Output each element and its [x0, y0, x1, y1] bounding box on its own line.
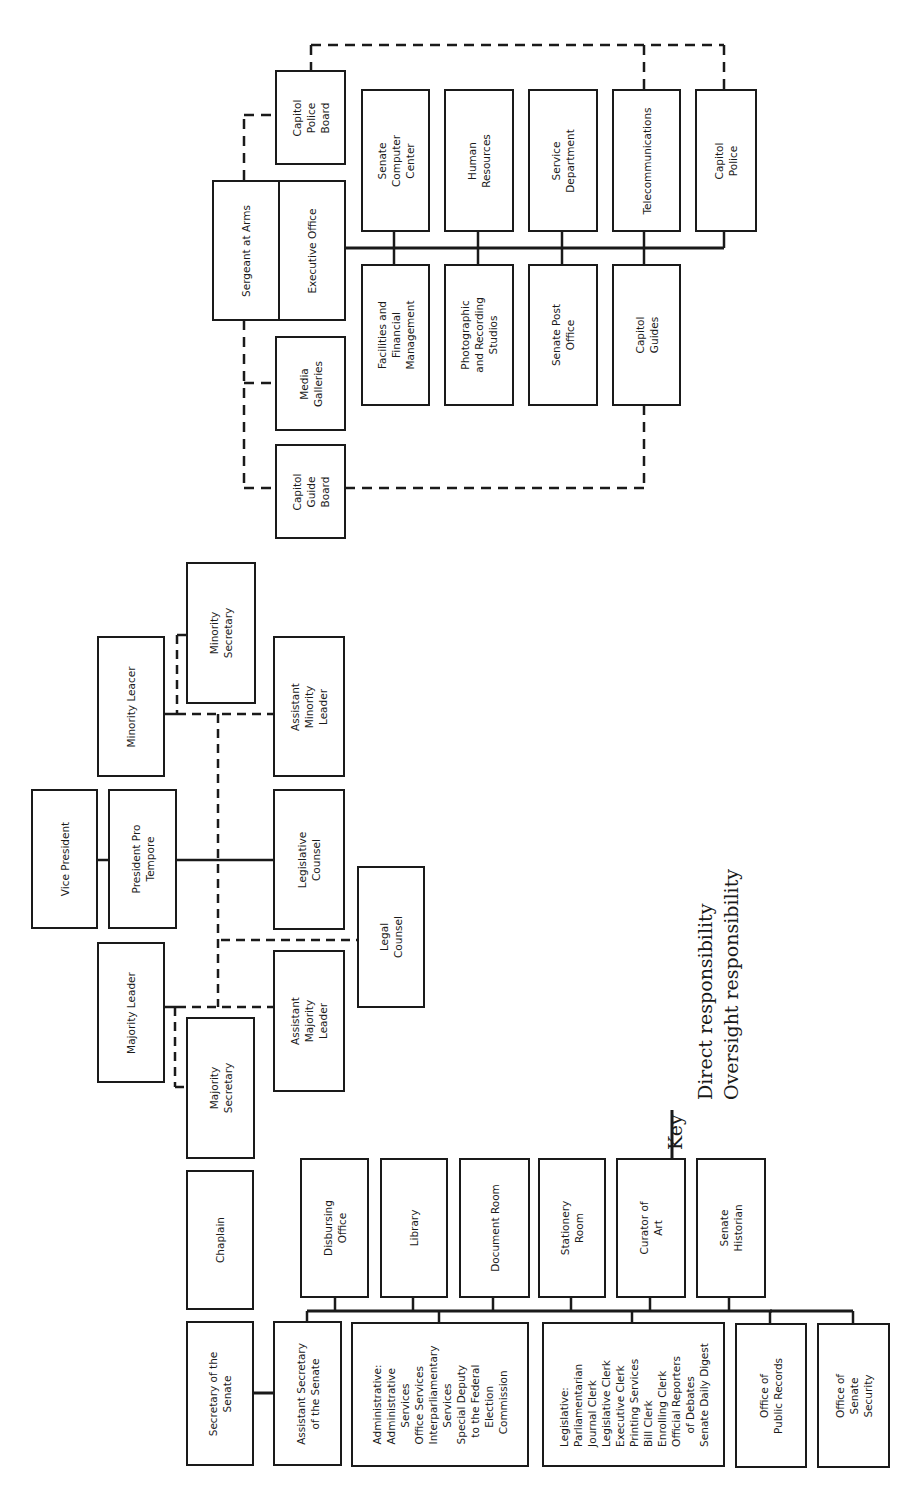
- box-capitol-guides: Capitol Guides: [612, 264, 681, 406]
- label-capitol-guides: Capitol Guides: [633, 317, 661, 354]
- label-document-room: Document Room: [488, 1184, 502, 1272]
- box-office-of-public-records: Office of Public Records: [735, 1323, 807, 1468]
- box-media-galleries: Media Galleries: [275, 336, 346, 431]
- box-vice-president: Vice President: [31, 789, 98, 929]
- box-sergeant-at-arms: Sergeant at Arms: [212, 180, 280, 321]
- box-capitol-police: Capitol Police: [695, 89, 757, 232]
- label-administrative: Administrative: Administrative Services …: [370, 1345, 510, 1444]
- box-stationery-room: Stationery Room: [538, 1158, 606, 1298]
- box-administrative: Administrative: Administrative Services …: [351, 1322, 529, 1467]
- box-majority-secretary: Majority Secretary: [186, 1017, 255, 1159]
- box-legislative: Legislative: Parliamentarian Journal Cle…: [542, 1322, 725, 1467]
- label-photographic-recording-studios: Photographic and Recording Studios: [458, 297, 500, 373]
- label-legislative: Legislative: Parliamentarian Journal Cle…: [557, 1343, 711, 1447]
- label-minority-leader: Minority Leacer: [124, 666, 138, 747]
- label-library: Library: [407, 1210, 421, 1247]
- box-capitol-guide-board: Capitol Guide Board: [275, 444, 346, 539]
- label-sergeant-at-arms: Sergeant at Arms: [239, 205, 253, 297]
- legend-direct-label: Direct responsibility: [694, 904, 716, 1100]
- label-office-of-senate-security: Office of Senate Security: [833, 1373, 875, 1417]
- label-service-department: Service Department: [549, 129, 577, 193]
- box-senate-computer-center: Senate Computer Center: [361, 89, 430, 232]
- label-capitol-guide-board: Capitol Guide Board: [290, 473, 332, 510]
- box-assistant-majority-leader: Assistant Majority Leader: [273, 950, 345, 1092]
- label-capitol-police-board: Capitol Police Board: [290, 99, 332, 136]
- label-chaplain: Chaplain: [213, 1217, 227, 1263]
- box-library: Library: [380, 1158, 448, 1298]
- box-assistant-secretary: Assistant Secretary of the Senate: [273, 1321, 342, 1466]
- box-curator-of-art: Curator of Art: [616, 1158, 686, 1298]
- box-legal-counsel: Legal Counsel: [357, 866, 425, 1008]
- box-disbursing-office: Disbursing Office: [300, 1158, 369, 1298]
- label-secretary-of-the-senate: Secretary of the Senate: [206, 1351, 234, 1436]
- box-assistant-minority-leader: Assistant Minority Leader: [273, 636, 345, 777]
- label-stationery-room: Stationery Room: [558, 1201, 586, 1255]
- label-assistant-secretary: Assistant Secretary of the Senate: [294, 1343, 322, 1445]
- box-service-department: Service Department: [528, 89, 598, 232]
- label-assistant-majority-leader: Assistant Majority Leader: [288, 997, 330, 1045]
- label-legal-counsel: Legal Counsel: [377, 916, 405, 958]
- label-curator-of-art: Curator of Art: [637, 1201, 665, 1254]
- box-president-pro-tempore: President Pro Tempore: [108, 789, 177, 929]
- box-capitol-police-board: Capitol Police Board: [275, 70, 346, 165]
- label-minority-secretary: Minority Secretary: [207, 608, 235, 659]
- box-telecommunications: Telecommunications: [612, 89, 681, 232]
- box-human-resources: Human Resources: [444, 89, 514, 232]
- legend: Key Direct responsibility Oversight resp…: [560, 780, 680, 1160]
- label-executive-office: Executive Office: [305, 208, 319, 293]
- label-media-galleries: Media Galleries: [297, 360, 325, 406]
- label-senate-computer-center: Senate Computer Center: [375, 134, 417, 186]
- box-majority-leader: Majority Leader: [97, 942, 165, 1083]
- label-disbursing-office: Disbursing Office: [321, 1200, 349, 1256]
- label-facilities-financial-management: Facilities and Financial Management: [375, 300, 417, 369]
- box-photographic-recording-studios: Photographic and Recording Studios: [444, 264, 514, 406]
- box-senate-post-office: Senate Post Office: [528, 264, 598, 406]
- label-office-of-public-records: Office of Public Records: [757, 1357, 785, 1433]
- label-majority-secretary: Majority Secretary: [207, 1063, 235, 1114]
- box-executive-office: Executive Office: [278, 180, 346, 321]
- label-human-resources: Human Resources: [465, 134, 493, 188]
- legend-line-swatches: [560, 780, 680, 1160]
- box-facilities-financial-management: Facilities and Financial Management: [361, 264, 430, 406]
- label-telecommunications: Telecommunications: [640, 107, 654, 214]
- label-senate-historian: Senate Historian: [717, 1204, 745, 1251]
- box-chaplain: Chaplain: [186, 1170, 254, 1310]
- label-majority-leader: Majority Leader: [124, 972, 138, 1054]
- legend-oversight-label: Oversight responsibility: [720, 869, 742, 1100]
- label-president-pro-tempore: President Pro Tempore: [129, 825, 157, 894]
- box-legislative-counsel: Legislative Counsel: [273, 789, 345, 930]
- label-legislative-counsel: Legislative Counsel: [295, 831, 323, 887]
- box-minority-secretary: Minority Secretary: [186, 562, 256, 704]
- box-senate-historian: Senate Historian: [696, 1158, 766, 1298]
- label-vice-president: Vice President: [58, 822, 72, 896]
- box-office-of-senate-security: Office of Senate Security: [817, 1323, 890, 1468]
- label-senate-post-office: Senate Post Office: [549, 304, 577, 366]
- label-assistant-minority-leader: Assistant Minority Leader: [288, 683, 330, 731]
- box-document-room: Document Room: [459, 1158, 530, 1298]
- box-secretary-of-the-senate: Secretary of the Senate: [186, 1321, 254, 1466]
- box-minority-leader: Minority Leacer: [97, 636, 165, 777]
- label-capitol-police: Capitol Police: [712, 142, 740, 179]
